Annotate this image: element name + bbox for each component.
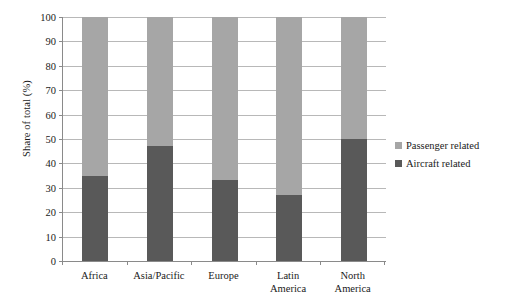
bar-group [341, 17, 367, 261]
y-axis-tick-label: 50 [46, 134, 57, 145]
y-axis-tick-label: 80 [46, 60, 57, 71]
y-axis-title: Share of total (%) [21, 49, 32, 189]
x-axis-category-label-line: Latin [251, 270, 325, 283]
legend-swatch-icon [395, 160, 402, 167]
bar-segment-passenger-related [341, 17, 367, 139]
x-axis-category-label: Africa [57, 270, 131, 283]
x-axis-tick [62, 261, 63, 265]
x-axis-tick [191, 261, 192, 265]
y-axis-tick-label: 90 [46, 36, 57, 47]
bar-group [276, 17, 302, 261]
legend-label: Passenger related [406, 140, 479, 151]
stacked-bar-chart: Share of total (%) 100908070605040302010… [0, 0, 505, 301]
chart-legend: Passenger relatedAircraft related [395, 136, 503, 172]
legend-item: Passenger related [395, 136, 503, 154]
y-axis-tick-label: 100 [40, 12, 56, 23]
y-axis-tick [59, 115, 63, 116]
y-axis-tick-label: 0 [51, 256, 56, 267]
x-axis-tick [127, 261, 128, 265]
x-axis-category-label: Europe [187, 270, 261, 283]
bar-segment-aircraft-related [212, 180, 238, 261]
legend-item: Aircraft related [395, 154, 503, 172]
plot-area: 1009080706050403020100 [62, 17, 386, 261]
x-axis-tick [320, 261, 321, 265]
y-axis-tick-label: 30 [46, 182, 57, 193]
bar-segment-passenger-related [212, 17, 238, 180]
x-axis-category-label: LatinAmerica [251, 270, 325, 295]
bar-segment-passenger-related [147, 17, 173, 146]
bar-segment-aircraft-related [341, 139, 367, 261]
bar-segment-aircraft-related [82, 176, 108, 261]
x-axis-category-label-line: Asia/Pacific [122, 270, 196, 283]
bar-segment-passenger-related [276, 17, 302, 195]
y-axis-tick [59, 212, 63, 213]
y-axis-tick-label: 10 [46, 231, 57, 242]
y-axis-tick [59, 163, 63, 164]
bar-segment-aircraft-related [147, 146, 173, 261]
x-axis: AfricaAsia/PacificEuropeLatinAmericaNort… [62, 261, 385, 301]
bar-group [212, 17, 238, 261]
bar-segment-passenger-related [82, 17, 108, 176]
y-axis-tick [59, 237, 63, 238]
bar-group [82, 17, 108, 261]
y-axis-tick-label: 20 [46, 207, 57, 218]
bar-segment-aircraft-related [276, 195, 302, 261]
x-axis-category-label-line: Europe [187, 270, 261, 283]
y-axis-tick [59, 90, 63, 91]
x-axis-tick [384, 261, 385, 265]
y-axis-tick-label: 40 [46, 158, 57, 169]
y-axis-tick [59, 41, 63, 42]
x-axis-category-label-line: North [316, 270, 390, 283]
x-axis-category-label-line: America [251, 283, 325, 296]
y-axis-tick [59, 66, 63, 67]
y-axis-tick-label: 60 [46, 109, 57, 120]
x-axis-category-label-line: America [316, 283, 390, 296]
y-axis-tick [59, 139, 63, 140]
y-axis-tick [59, 17, 63, 18]
x-axis-category-label: NorthAmerica [316, 270, 390, 295]
bar-group [147, 17, 173, 261]
x-axis-category-label-line: Africa [57, 270, 131, 283]
x-axis-tick [256, 261, 257, 265]
y-axis-tick [59, 188, 63, 189]
x-axis-category-label: Asia/Pacific [122, 270, 196, 283]
legend-label: Aircraft related [406, 158, 470, 169]
legend-swatch-icon [395, 142, 402, 149]
y-axis-tick-label: 70 [46, 85, 57, 96]
